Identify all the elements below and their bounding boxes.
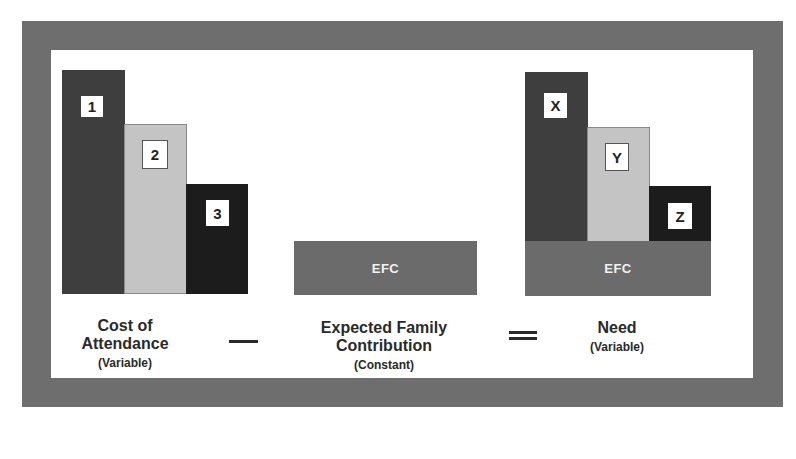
equals-operator-bottom	[509, 337, 537, 340]
need-bar-y-label: Y	[605, 143, 629, 171]
need-efc-base: EFC	[525, 241, 711, 296]
coa-bar-3-label: 3	[206, 200, 229, 226]
need-caption: Need (Variable)	[567, 318, 667, 356]
need-bar-z-label: Z	[668, 203, 692, 229]
efc-caption: Expected Family Contribution (Constant)	[296, 318, 472, 374]
efc-caption-line1: Expected Family	[296, 318, 472, 338]
coa-caption: Cost of Attendance (Variable)	[62, 316, 188, 372]
equals-operator-top	[509, 331, 537, 334]
coa-caption-line2: Attendance	[62, 334, 188, 354]
efc-caption-sub: (Constant)	[296, 356, 472, 374]
minus-operator	[229, 340, 258, 343]
coa-caption-sub: (Variable)	[62, 354, 188, 372]
coa-caption-line1: Cost of	[62, 316, 188, 336]
coa-bar-2-label: 2	[142, 140, 168, 169]
efc-caption-line2: Contribution	[296, 336, 472, 356]
coa-bar-1-label: 1	[81, 96, 103, 117]
need-caption-line1: Need	[567, 318, 667, 338]
need-caption-sub: (Variable)	[567, 338, 667, 356]
need-bar-x-label: X	[544, 93, 567, 118]
efc-block: EFC	[294, 241, 477, 295]
